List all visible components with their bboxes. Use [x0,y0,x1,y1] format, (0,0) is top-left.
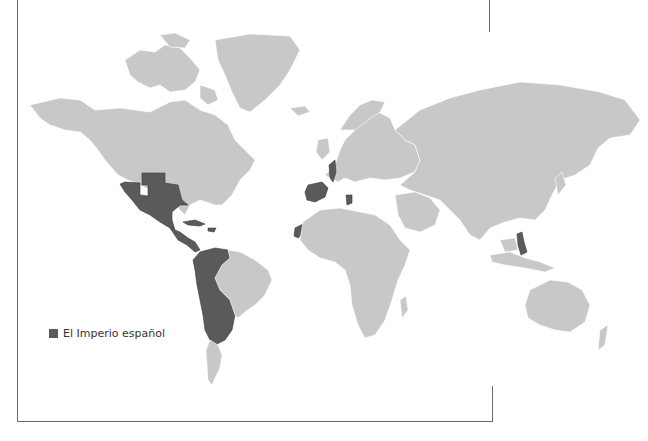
world-map [0,0,648,441]
africa [300,192,440,338]
philippines [517,232,527,255]
legend-swatch [49,329,58,338]
asia [395,82,640,272]
legend-label: El Imperio español [63,327,165,340]
legend: El Imperio español [49,327,165,340]
australia [525,280,608,350]
